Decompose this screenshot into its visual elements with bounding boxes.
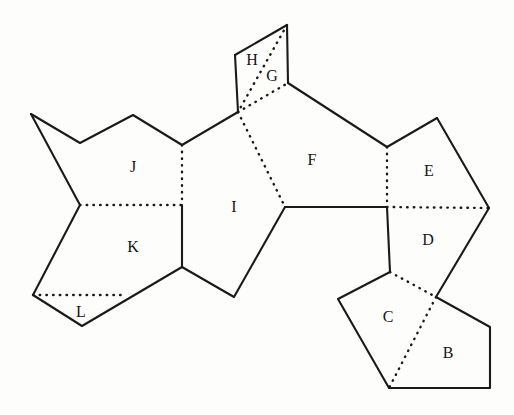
dotted-edge-fold-e-d-horizontal [387, 207, 489, 208]
face-label-l: L [76, 303, 86, 320]
dotted-edge-fold-i-f [238, 112, 285, 207]
solid-edge-edge-e-right-to-d [436, 208, 489, 297]
face-label-f: F [308, 151, 317, 168]
face-label-g: G [266, 67, 278, 84]
solid-edge-outline-top-left [31, 112, 238, 145]
face-label-h: H [246, 51, 258, 68]
polygon-net-figure: BCDEFGHIJKL [0, 0, 514, 415]
solid-edge-outline-parallelogram-left [235, 55, 238, 112]
solid-edge-edge-d-to-b-right [389, 297, 490, 388]
face-label-d: D [422, 231, 434, 248]
face-label-i: I [231, 198, 236, 215]
solid-edge-edge-c-top-to-d-bottom [387, 207, 390, 272]
solid-edge-outline-parallelogram-top [235, 25, 287, 55]
face-label-c: C [383, 308, 394, 325]
net-diagram-svg: BCDEFGHIJKL [0, 0, 514, 415]
face-label-k: K [127, 238, 139, 255]
dotted-fold-edges-group [33, 25, 489, 388]
solid-edge-edge-g-to-f [288, 83, 387, 147]
face-label-j: J [130, 158, 136, 175]
solid-edge-outline-parallelogram-right [287, 25, 288, 83]
dotted-edge-fold-c-d [390, 272, 436, 297]
solid-edge-edge-f-to-e-peak [387, 118, 437, 147]
face-label-b: B [443, 344, 454, 361]
solid-edge-edge-i-right-down [182, 207, 285, 297]
solid-edge-edge-e-peak-to-right [437, 118, 489, 208]
face-label-e: E [424, 162, 434, 179]
solid-edge-edge-c-bottom-left [338, 272, 390, 388]
dotted-edge-fold-g-bottom [238, 83, 288, 112]
dotted-edge-fold-c-b [389, 297, 436, 388]
